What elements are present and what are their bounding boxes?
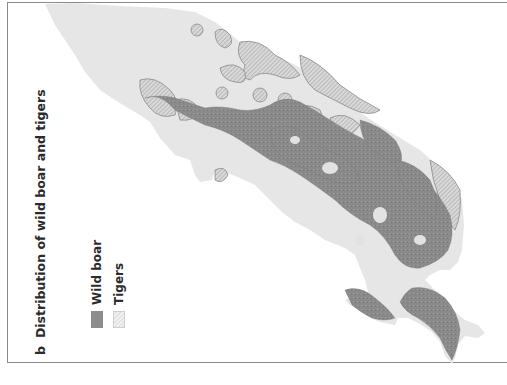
legend-label: Wild boar	[90, 240, 104, 305]
wild-boar-swatch	[91, 311, 103, 328]
title-text: Distribution of wild boar and tigers	[33, 89, 48, 338]
panel-letter: b	[33, 346, 48, 355]
legend-item-wild-boar: Wild boar	[90, 240, 104, 328]
tigers-swatch	[113, 311, 125, 328]
figure-title: bDistribution of wild boar and tigers	[33, 89, 48, 355]
legend-item-tigers: Tigers	[112, 263, 126, 328]
legend-label: Tigers	[112, 263, 126, 305]
